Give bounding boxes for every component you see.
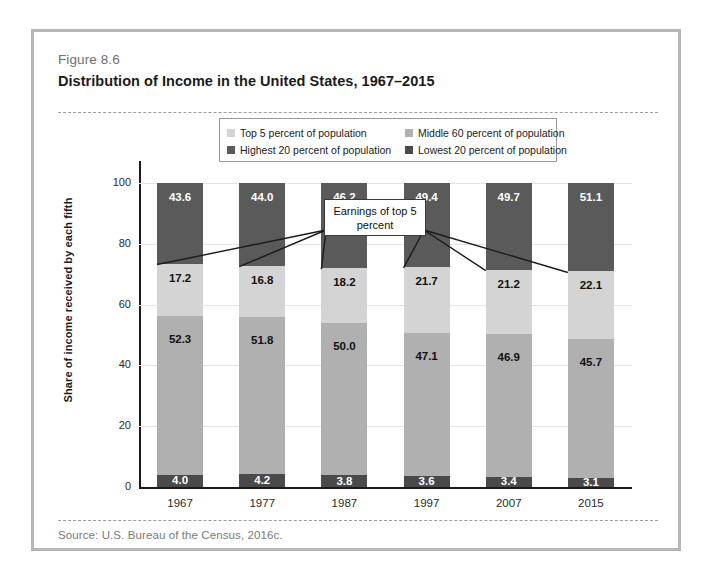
bar-value-label: 3.6 bbox=[404, 476, 450, 488]
gridline bbox=[139, 365, 632, 366]
bar-value-label: 51.1 bbox=[568, 192, 614, 204]
bar-value-label: 3.8 bbox=[321, 476, 367, 488]
legend-item-highest20: Highest 20 percent of population bbox=[227, 141, 405, 158]
callout-label: Earnings of top 5 percent bbox=[325, 204, 425, 232]
y-tick-label: 80 bbox=[103, 237, 131, 249]
bar-value-label: 3.4 bbox=[486, 476, 532, 488]
bar-value-label: 44.0 bbox=[239, 192, 285, 204]
bar-segment-lowest20: 3.1 bbox=[568, 478, 614, 487]
leader-line bbox=[239, 230, 326, 267]
bar-segment-middle60: 47.1 bbox=[404, 333, 450, 476]
figure-title: Distribution of Income in the United Sta… bbox=[58, 71, 658, 92]
bar-segment-middle60: 50.0 bbox=[321, 323, 367, 475]
gridline bbox=[139, 426, 632, 427]
x-tick-label: 1987 bbox=[309, 497, 379, 509]
bar-segment-top5: 17.2 bbox=[157, 264, 203, 316]
y-tick-label: 20 bbox=[103, 419, 131, 431]
leader-line bbox=[157, 230, 326, 265]
y-axis-line bbox=[139, 161, 141, 487]
legend-swatch-highest20-icon bbox=[227, 146, 235, 154]
bar-segment-top5: 21.2 bbox=[486, 270, 532, 334]
bar-segment-middle60: 46.9 bbox=[486, 334, 532, 477]
leader-line bbox=[424, 230, 486, 271]
bar-segment-top5: 16.8 bbox=[239, 266, 285, 317]
y-tick-label: 100 bbox=[103, 176, 131, 188]
figure-card: Figure 8.6 Distribution of Income in the… bbox=[31, 29, 681, 551]
x-tick-label: 1967 bbox=[145, 497, 215, 509]
y-tick-label: 0 bbox=[103, 480, 131, 492]
bar-value-label: 4.0 bbox=[157, 475, 203, 487]
bar-segment-lowest20: 3.4 bbox=[486, 477, 532, 487]
bar-segment-lowest20: 4.0 bbox=[157, 475, 203, 487]
chart-legend: Top 5 percent of populationMiddle 60 per… bbox=[219, 118, 557, 162]
y-axis-title: Share of income received by each fifth bbox=[62, 190, 74, 410]
legend-label: Top 5 percent of population bbox=[240, 127, 367, 139]
bar-value-label: 3.1 bbox=[568, 477, 614, 489]
bar-segment-lowest20: 3.6 bbox=[404, 476, 450, 487]
x-tick-label: 1997 bbox=[392, 497, 462, 509]
header-divider bbox=[58, 112, 658, 113]
gridline bbox=[139, 244, 632, 245]
bar-value-label: 45.7 bbox=[568, 357, 614, 369]
gridline bbox=[139, 183, 632, 184]
legend-label: Lowest 20 percent of population bbox=[418, 144, 567, 156]
bar-segment-highest20: 44.0 bbox=[239, 183, 285, 317]
bar-value-label: 18.2 bbox=[321, 277, 367, 289]
bar-segment-highest20: 51.1 bbox=[568, 183, 614, 339]
bar-value-label: 22.1 bbox=[568, 280, 614, 292]
footer-divider bbox=[58, 520, 658, 521]
legend-swatch-top5-icon bbox=[227, 129, 235, 137]
callout-leader-lines bbox=[34, 32, 684, 554]
legend-swatch-middle60-icon bbox=[405, 129, 413, 137]
bar-value-label: 51.8 bbox=[239, 335, 285, 347]
bar-segment-top5: 22.1 bbox=[568, 271, 614, 338]
bar-segment-middle60: 51.8 bbox=[239, 317, 285, 474]
gridline bbox=[139, 305, 632, 306]
bar-value-label: 16.8 bbox=[239, 275, 285, 287]
bar-segment-middle60: 45.7 bbox=[568, 339, 614, 478]
bar-value-label: 17.2 bbox=[157, 273, 203, 285]
bar-segment-top5: 18.2 bbox=[321, 268, 367, 323]
legend-item-lowest20: Lowest 20 percent of population bbox=[405, 141, 565, 158]
x-tick-label: 1977 bbox=[227, 497, 297, 509]
chart-plot-area: Share of income received by each fifth 0… bbox=[34, 32, 684, 554]
bar-value-label: 46.9 bbox=[486, 352, 532, 364]
bar-value-label: 43.6 bbox=[157, 192, 203, 204]
callout-box: Earnings of top 5 percent bbox=[324, 199, 426, 236]
bar-segment-top5: 21.7 bbox=[404, 267, 450, 333]
figure-number: Figure 8.6 bbox=[58, 50, 658, 69]
bar-value-label: 52.3 bbox=[157, 334, 203, 346]
bar-value-label: 47.1 bbox=[404, 351, 450, 363]
legend-item-middle60: Middle 60 percent of population bbox=[405, 124, 565, 141]
bar-segment-highest20: 43.6 bbox=[157, 183, 203, 316]
x-tick-label: 2015 bbox=[556, 497, 626, 509]
legend-label: Middle 60 percent of population bbox=[418, 127, 565, 139]
x-tick-label: 2007 bbox=[474, 497, 544, 509]
bar-value-label: 4.2 bbox=[239, 475, 285, 487]
legend-item-top5: Top 5 percent of population bbox=[227, 124, 405, 141]
bar-value-label: 21.7 bbox=[404, 276, 450, 288]
figure-header: Figure 8.6 Distribution of Income in the… bbox=[58, 50, 658, 92]
bar-value-label: 50.0 bbox=[321, 341, 367, 353]
bar-value-label: 49.7 bbox=[486, 192, 532, 204]
bar-value-label: 21.2 bbox=[486, 279, 532, 291]
bar-segment-lowest20: 4.2 bbox=[239, 474, 285, 487]
bar-segment-middle60: 52.3 bbox=[157, 316, 203, 475]
x-axis-line bbox=[139, 487, 632, 489]
leader-line bbox=[424, 230, 568, 272]
source-note: Source: U.S. Bureau of the Census, 2016c… bbox=[58, 529, 283, 541]
legend-label: Highest 20 percent of population bbox=[240, 144, 391, 156]
bar-segment-lowest20: 3.8 bbox=[321, 475, 367, 487]
y-tick-label: 60 bbox=[103, 298, 131, 310]
bar-segment-highest20: 49.7 bbox=[486, 183, 532, 334]
legend-swatch-lowest20-icon bbox=[405, 146, 413, 154]
y-tick-label: 40 bbox=[103, 358, 131, 370]
